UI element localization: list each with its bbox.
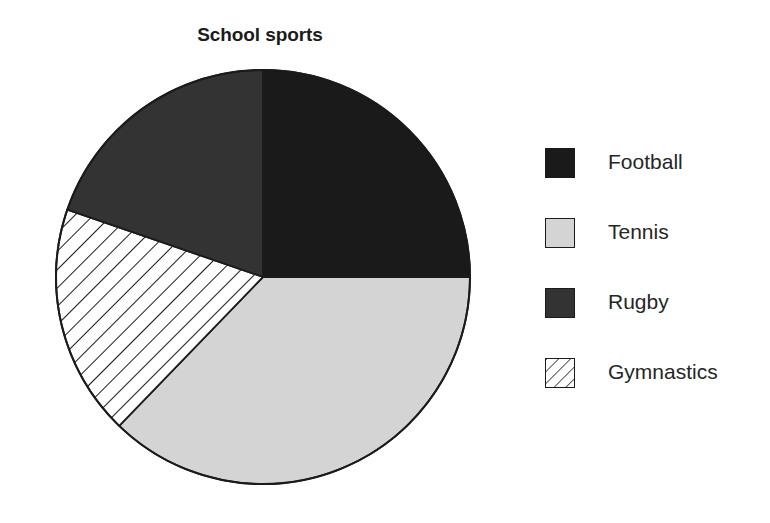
solid-light-gray-swatch: [545, 218, 575, 248]
diagonal-hatch-swatch: [545, 358, 575, 388]
pie-slice-football[interactable]: [263, 70, 470, 277]
legend-item-gymnastics[interactable]: Gymnastics: [545, 358, 760, 428]
pie-slice-group: [56, 70, 470, 484]
legend-label-rugby: Rugby: [608, 287, 669, 317]
solid-gray-swatch: [545, 288, 575, 318]
legend-label-football: Football: [608, 147, 683, 177]
legend-label-tennis: Tennis: [608, 217, 669, 247]
pie-plot-area: [55, 69, 471, 485]
legend-item-rugby[interactable]: Rugby: [545, 288, 760, 358]
chart-title: School sports: [0, 24, 520, 46]
chart-legend: FootballTennisRugbyGymnastics: [545, 148, 760, 428]
pie-svg: [55, 69, 471, 485]
solid-dark-swatch: [545, 148, 575, 178]
legend-item-tennis[interactable]: Tennis: [545, 218, 760, 288]
legend-item-football[interactable]: Football: [545, 148, 760, 218]
legend-label-gymnastics: Gymnastics: [608, 357, 718, 387]
pie-chart-figure: School sports FootballTennisRugbyGymnast…: [0, 0, 770, 523]
